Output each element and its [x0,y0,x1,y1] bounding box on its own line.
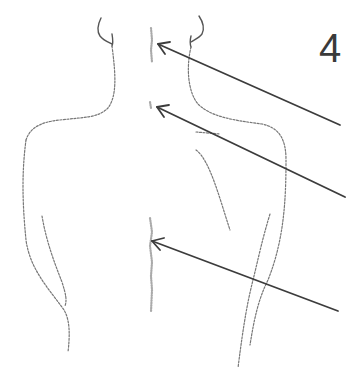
head-left-outline [98,18,113,46]
spine-mark-neck [151,28,152,62]
head-right-outline [190,16,203,47]
spine-mark-upper-back [150,102,151,108]
upper-back-arrow [157,105,345,197]
right-arm-outer-outline [250,160,286,345]
left-arm-inner-outline [42,216,66,306]
mid-back-arrow [152,238,338,311]
spine-mark-mid-back [150,218,152,312]
left-arm-outer-outline [23,140,69,352]
upper-neck-arrow [158,42,340,125]
right-arm-inner-outline [238,214,270,368]
right-torso-outline [196,150,230,230]
left-neck-shoulder-outline [26,46,115,140]
back-diagram: 4 [0,0,356,378]
figure-number: 4 [319,28,341,68]
